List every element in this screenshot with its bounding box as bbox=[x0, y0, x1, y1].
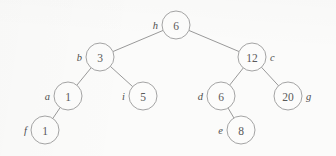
node-value-h: 6 bbox=[173, 20, 179, 32]
node-label-d: d bbox=[198, 91, 204, 102]
tree-node-b[interactable]: 3b bbox=[77, 43, 114, 71]
edge-layer bbox=[53, 30, 279, 118]
node-value-g: 20 bbox=[282, 91, 294, 103]
tree-edge-d-e bbox=[228, 108, 234, 118]
tree-edge-b-a bbox=[77, 68, 91, 85]
tree-edge-c-g bbox=[261, 67, 278, 85]
tree-node-i[interactable]: 5i bbox=[122, 82, 157, 110]
node-value-e: 8 bbox=[238, 125, 244, 137]
node-layer: 6h3b12c1a5i6d20g1f8e bbox=[24, 11, 311, 144]
tree-edge-h-c bbox=[189, 30, 239, 51]
node-label-g: g bbox=[306, 91, 311, 102]
tree-edge-c-d bbox=[230, 68, 244, 85]
node-label-i: i bbox=[122, 91, 125, 102]
tree-canvas: 6h3b12c1a5i6d20g1f8e bbox=[0, 0, 336, 156]
node-label-f: f bbox=[24, 125, 29, 136]
node-label-e: e bbox=[218, 125, 223, 136]
tree-edge-h-b bbox=[113, 30, 163, 51]
node-value-b: 3 bbox=[97, 52, 103, 64]
node-label-a: a bbox=[45, 91, 50, 102]
node-value-c: 12 bbox=[246, 52, 258, 64]
node-value-f: 1 bbox=[42, 125, 48, 137]
node-value-d: 6 bbox=[218, 91, 224, 103]
tree-node-e[interactable]: 8e bbox=[218, 116, 255, 144]
tree-node-f[interactable]: 1f bbox=[24, 116, 59, 144]
tree-node-c[interactable]: 12c bbox=[238, 43, 275, 71]
node-label-b: b bbox=[77, 52, 82, 63]
tree-node-h[interactable]: 6h bbox=[153, 11, 190, 39]
binary-tree-diagram: 6h3b12c1a5i6d20g1f8e bbox=[0, 0, 336, 156]
node-label-c: c bbox=[270, 52, 275, 63]
tree-node-g[interactable]: 20g bbox=[274, 82, 311, 110]
tree-node-a[interactable]: 1a bbox=[45, 82, 82, 110]
node-label-h: h bbox=[153, 20, 158, 31]
tree-edge-a-f bbox=[53, 108, 60, 119]
node-value-a: 1 bbox=[65, 91, 71, 103]
node-value-i: 5 bbox=[140, 91, 146, 103]
tree-edge-b-i bbox=[110, 66, 132, 86]
tree-node-d[interactable]: 6d bbox=[198, 82, 235, 110]
